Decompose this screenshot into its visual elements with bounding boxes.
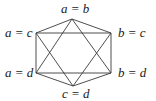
- edge-top-lower_right: [72, 19, 111, 73]
- edge-top-lower_left: [36, 19, 72, 73]
- vertex-label-lower-left: a = d: [5, 66, 33, 79]
- edge-bottom-upper_left: [36, 33, 73, 86]
- edge-bottom-upper_right: [73, 33, 111, 86]
- vertex-label-upper-left: a = c: [5, 26, 33, 39]
- graph-edges: [36, 19, 111, 86]
- vertex-label-top: a = b: [61, 2, 89, 15]
- edge-top-upper_right: [72, 19, 111, 33]
- edge-bottom-lower_left: [36, 73, 73, 86]
- vertex-label-upper-right: b = c: [118, 26, 146, 39]
- edge-bottom-lower_right: [73, 73, 111, 86]
- edge-top-upper_left: [36, 19, 72, 33]
- vertex-label-bottom: c = d: [62, 87, 90, 100]
- vertex-label-lower-right: b = d: [118, 66, 146, 79]
